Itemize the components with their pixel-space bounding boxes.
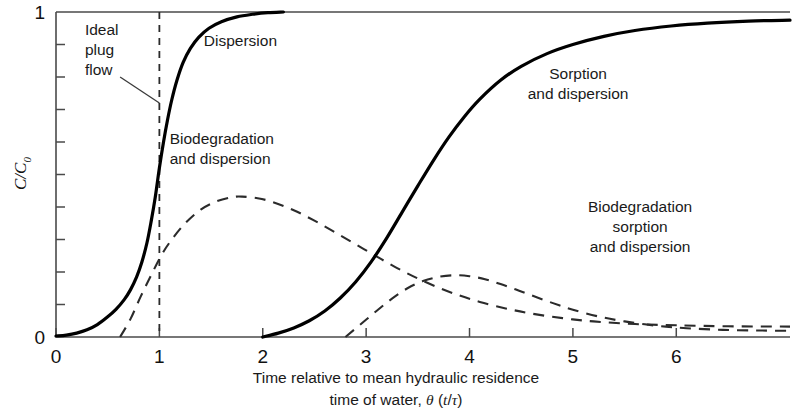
annotation-sorption-and-dispersion: Sorptionand dispersion bbox=[528, 65, 629, 102]
data-curves bbox=[56, 12, 790, 337]
annotation-biodegradation-sorption-and-dispersion-line3: and dispersion bbox=[590, 238, 691, 255]
annotation-ideal-plug-flow-line1: Ideal bbox=[85, 21, 119, 38]
annotation-ideal-plug-flow-line3: flow bbox=[85, 61, 113, 78]
y-tick-labels: 01 bbox=[34, 2, 45, 348]
x-tick-label: 2 bbox=[257, 346, 268, 367]
x-tick-label: 5 bbox=[568, 346, 579, 367]
curve-biodegradation-sorption-and-dispersion bbox=[345, 275, 790, 337]
annotation-dispersion: Dispersion bbox=[204, 32, 277, 49]
annotation-biodegradation-sorption-and-dispersion: Biodegradationsorptionand dispersion bbox=[588, 198, 692, 255]
annotation-biodegradation-and-dispersion-line2: and dispersion bbox=[170, 150, 271, 167]
annotation-ideal-plug-flow: Idealplugflow bbox=[85, 21, 119, 78]
y-axis-title-subscript: 0 bbox=[21, 157, 33, 163]
x-tick-label: 3 bbox=[361, 346, 372, 367]
y-minor-ticks bbox=[56, 45, 65, 305]
annotation-biodegradation-and-dispersion: Biodegradationand dispersion bbox=[170, 130, 274, 167]
svg-text:C/C0: C/C0 bbox=[11, 157, 33, 190]
curve-biodegradation-and-dispersion bbox=[120, 197, 790, 337]
curve-sorption-and-dispersion bbox=[263, 20, 790, 337]
x-tick-labels: 0123456 bbox=[51, 346, 682, 367]
x-axis-title-line1: Time relative to mean hydraulic residenc… bbox=[253, 369, 539, 386]
annotation-ideal-plug-flow-line2: plug bbox=[85, 41, 114, 58]
chart-figure: 0123456 01 C/C0 IdealplugflowDispersionB… bbox=[0, 0, 792, 413]
annotation-dispersion-line1: Dispersion bbox=[204, 32, 277, 49]
annotation-biodegradation-and-dispersion-line1: Biodegradation bbox=[170, 130, 274, 147]
x-tick-label: 6 bbox=[671, 346, 682, 367]
y-tick-label: 1 bbox=[34, 2, 45, 23]
annotation-sorption-and-dispersion-line2: and dispersion bbox=[528, 85, 629, 102]
x-axis-title: Time relative to mean hydraulic residenc… bbox=[253, 369, 539, 408]
annotation-biodegradation-sorption-and-dispersion-line2: sorption bbox=[613, 218, 668, 235]
y-tick-label: 0 bbox=[34, 327, 45, 348]
x-axis-title-line2-text: time of water, bbox=[330, 391, 426, 408]
x-tick-label: 4 bbox=[464, 346, 475, 367]
x-tick-label: 0 bbox=[51, 346, 62, 367]
annotation-biodegradation-sorption-and-dispersion-line1: Biodegradation bbox=[588, 198, 692, 215]
x-tick-label: 1 bbox=[154, 346, 165, 367]
x-tick-marks bbox=[56, 328, 676, 337]
y-axis-title-main: C/C bbox=[11, 162, 30, 190]
plot-annotations: IdealplugflowDispersionBiodegradationand… bbox=[85, 21, 692, 255]
breakthrough-curve-chart: 0123456 01 C/C0 IdealplugflowDispersionB… bbox=[0, 0, 792, 413]
x-axis-title-line2: time of water, θ (t/τ) bbox=[330, 391, 463, 408]
y-axis-title: C/C0 bbox=[11, 157, 33, 190]
annotation-sorption-and-dispersion-line1: Sorption bbox=[549, 65, 607, 82]
ideal-plug-flow-leader bbox=[120, 77, 159, 103]
